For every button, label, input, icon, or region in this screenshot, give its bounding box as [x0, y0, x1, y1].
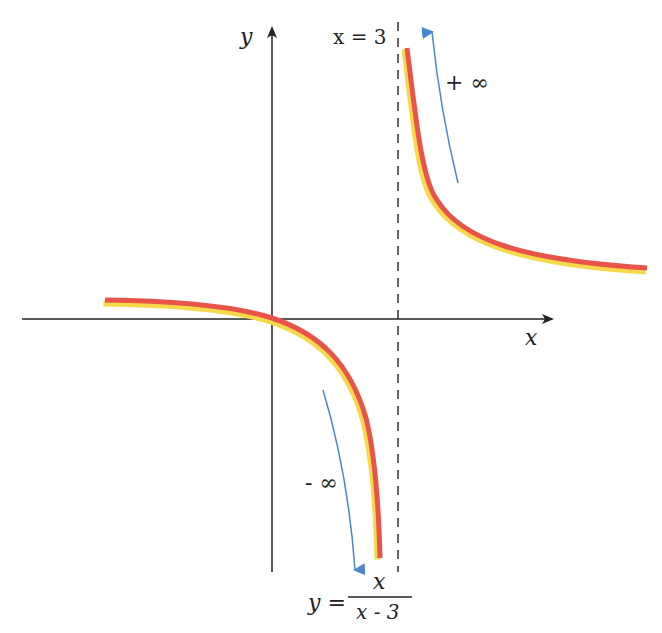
curve-left-branch	[105, 300, 380, 558]
y-axis-label: y	[239, 24, 253, 49]
graph: y x x = 3 + ∞ - ∞ y = x x - 3	[0, 0, 662, 633]
minus-infinity-label: - ∞	[305, 470, 338, 495]
curve-right-branch-highlight	[405, 50, 646, 272]
curve-right-branch	[407, 48, 647, 268]
formula-numerator: x	[373, 569, 386, 594]
curve-left-branch-highlight	[104, 304, 378, 560]
formula-denominator: x - 3	[356, 600, 399, 624]
plus-infinity-label: + ∞	[445, 70, 489, 95]
asymptote-label: x = 3	[333, 25, 386, 49]
plus-infinity-arrow	[432, 32, 458, 183]
formula-lhs: y =	[307, 590, 346, 615]
x-axis-label: x	[525, 325, 538, 350]
